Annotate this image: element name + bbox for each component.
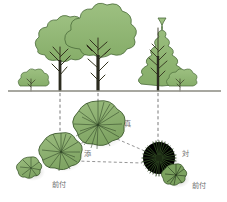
plan-symbol-shrub-left [16, 157, 41, 178]
elevation-view [8, 3, 221, 91]
tree-trunk [96, 55, 99, 91]
label-tai: 対 [182, 149, 189, 158]
label-maezuke-left: 前付 [52, 180, 66, 189]
conifer-plan-center [156, 155, 162, 161]
shrub-canopy [18, 69, 49, 86]
relation-center-to-conifer [117, 139, 147, 152]
label-shin: 真 [124, 119, 131, 128]
relation-left-to-conifer [76, 161, 142, 163]
diagram-canvas: 真 添 対 前付 前付 [0, 0, 227, 202]
garden-planting-diagram: 真 添 対 前付 前付 [0, 0, 227, 202]
label-soe: 添 [84, 149, 91, 158]
conifer-trunk [157, 56, 159, 91]
elevation-shrub-far-left [18, 69, 49, 91]
plan-view [16, 101, 190, 188]
tree-trunk [59, 60, 62, 91]
label-maezuke-right: 前付 [192, 181, 206, 190]
